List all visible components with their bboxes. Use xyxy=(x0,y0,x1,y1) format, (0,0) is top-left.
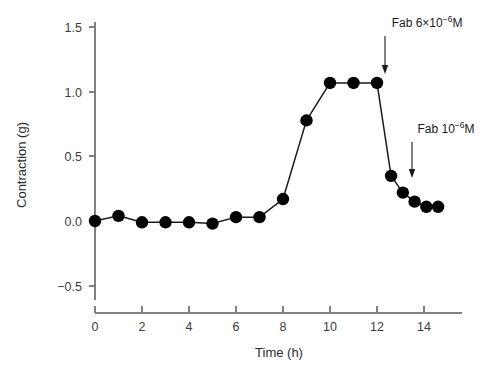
data-point xyxy=(300,114,312,126)
data-point xyxy=(420,201,432,213)
x-tick-label-8: 8 xyxy=(280,320,287,334)
data-point xyxy=(159,216,171,228)
data-point xyxy=(371,77,383,89)
data-point xyxy=(253,211,265,223)
chart-canvas: 1.5 1.0 0.5 0.0 −0.5 0 2 4 6 8 10 12 14 xyxy=(0,0,489,375)
data-series-markers xyxy=(89,77,445,230)
data-point xyxy=(230,211,242,223)
y-axis-tick-labels: 1.5 1.0 0.5 0.0 −0.5 xyxy=(57,21,82,294)
x-tick-label-4: 4 xyxy=(186,320,193,334)
data-point xyxy=(324,77,336,89)
annotation-high-suffix: M xyxy=(452,16,462,30)
data-point xyxy=(277,193,289,205)
data-point xyxy=(347,77,359,89)
contraction-time-chart: 1.5 1.0 0.5 0.0 −0.5 0 2 4 6 8 10 12 14 xyxy=(0,0,489,375)
annotation-high-prefix: Fab 6×10 xyxy=(392,16,443,30)
data-point xyxy=(89,215,101,227)
data-point xyxy=(206,217,218,229)
data-series-line xyxy=(95,83,438,224)
annotation-fab-low-dose: Fab 10−6M xyxy=(409,120,475,178)
data-point xyxy=(112,210,124,222)
annotation-low-prefix: Fab 10 xyxy=(417,122,455,136)
data-point xyxy=(408,195,420,207)
x-tick-label-2: 2 xyxy=(139,320,146,334)
y-tick-label-0.0: 0.0 xyxy=(65,215,82,229)
x-axis-ticks xyxy=(95,306,424,313)
x-tick-label-0: 0 xyxy=(92,320,99,334)
y-tick-label--0.5: −0.5 xyxy=(57,280,82,294)
y-tick-label-1.0: 1.0 xyxy=(65,86,82,100)
annotation-high-superscript: −6 xyxy=(443,14,453,24)
x-tick-label-12: 12 xyxy=(370,320,384,334)
x-tick-label-10: 10 xyxy=(323,320,337,334)
data-point xyxy=(397,186,409,198)
data-point xyxy=(136,216,148,228)
y-tick-label-0.5: 0.5 xyxy=(65,150,82,164)
annotation-fab-low-dose-label: Fab 10−6M xyxy=(417,120,474,136)
annotation-fab-high-dose-label: Fab 6×10−6M xyxy=(392,14,463,30)
y-tick-label-1.5: 1.5 xyxy=(65,21,82,35)
annotation-fab-low-dose-arrow-head xyxy=(409,169,415,178)
data-point xyxy=(183,216,195,228)
y-axis-title: Contraction (g) xyxy=(14,122,29,208)
x-tick-label-14: 14 xyxy=(417,320,431,334)
annotation-low-suffix: M xyxy=(465,122,475,136)
annotation-low-superscript: −6 xyxy=(455,120,465,130)
annotation-fab-high-dose: Fab 6×10−6M xyxy=(382,14,463,74)
x-tick-label-6: 6 xyxy=(233,320,240,334)
annotation-fab-high-dose-arrow-head xyxy=(382,65,388,74)
data-point xyxy=(432,201,444,213)
x-axis-tick-labels: 0 2 4 6 8 10 12 14 xyxy=(92,320,431,334)
x-axis-title: Time (h) xyxy=(255,345,303,360)
y-axis-ticks xyxy=(89,27,95,286)
data-point xyxy=(385,170,397,182)
